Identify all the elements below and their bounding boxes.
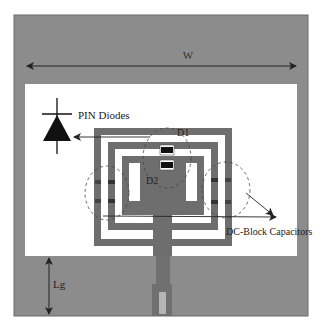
pin-diodes-label: PIN Diodes <box>78 109 130 121</box>
ground-length-label: Lg <box>53 278 66 290</box>
antenna-diagram: W Lg D1 D2 <box>0 0 335 330</box>
diode-d1 <box>160 145 174 155</box>
diode-d2-label: D2 <box>146 175 158 186</box>
width-label: W <box>183 49 194 61</box>
dc-block-capacitors-label: DC-Block Capacitors <box>226 226 312 237</box>
diode-d2 <box>160 160 174 170</box>
